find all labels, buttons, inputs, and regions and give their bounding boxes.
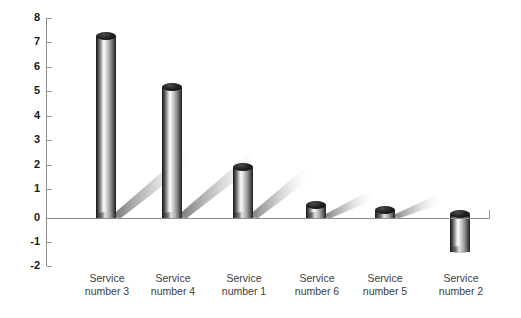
y-tick-label-6: 6 <box>22 60 40 72</box>
y-tick-mark <box>47 42 52 43</box>
y-tick-label-2: 2 <box>22 158 40 170</box>
bar-foot <box>450 246 470 253</box>
bar-service-number-6 <box>306 205 326 218</box>
x-category-label-0: Service number 3 <box>72 272 142 298</box>
bar-service-number-1 <box>233 167 253 218</box>
bar-chart: 8 7 6 5 4 3 2 1 0 -1 -2 <box>0 0 521 318</box>
x-category-label-4: Service number 5 <box>350 272 420 298</box>
bar-shadow <box>247 170 312 218</box>
bar-body <box>162 87 182 218</box>
zero-baseline-endcap <box>489 210 490 219</box>
bar-service-number-3 <box>96 36 116 218</box>
bar-cap <box>233 163 253 171</box>
y-tick-label-neg1: -1 <box>16 235 40 247</box>
y-tick-mark <box>47 242 52 243</box>
y-axis-line <box>46 18 47 266</box>
bar-shadow <box>110 152 196 218</box>
y-tick-label-4: 4 <box>22 109 40 121</box>
x-category-label-5: Service number 2 <box>426 272 496 298</box>
bar-body <box>96 36 116 218</box>
y-tick-mark <box>47 165 52 166</box>
y-tick-label-3: 3 <box>22 133 40 145</box>
bar-shadow-layer <box>0 0 521 318</box>
y-tick-mark <box>47 18 52 19</box>
y-tick-label-7: 7 <box>22 35 40 47</box>
y-tick-mark <box>47 67 52 68</box>
y-tick-label-1: 1 <box>22 182 40 194</box>
y-tick-mark <box>47 189 52 190</box>
y-tick-label-neg2: -2 <box>16 259 40 271</box>
y-tick-label-5: 5 <box>22 84 40 96</box>
y-tick-label-8: 8 <box>22 11 40 23</box>
y-tick-mark <box>47 140 52 141</box>
bar-service-number-4 <box>162 87 182 218</box>
y-tick-mark <box>47 266 52 267</box>
bar-cap <box>96 32 116 40</box>
bar-service-number-5 <box>375 210 395 218</box>
bar-shadow <box>389 196 443 218</box>
bar-cap <box>162 83 182 91</box>
plot-area: 8 7 6 5 4 3 2 1 0 -1 -2 <box>0 0 521 318</box>
x-category-label-1: Service number 4 <box>138 272 208 298</box>
y-tick-mark <box>47 91 52 92</box>
bar-cap <box>450 210 470 218</box>
y-tick-label-0: 0 <box>22 211 40 223</box>
zero-baseline <box>46 218 490 219</box>
bar-shadow <box>320 192 376 218</box>
x-category-label-3: Service number 6 <box>282 272 352 298</box>
x-category-label-2: Service number 1 <box>209 272 279 298</box>
bar-cap <box>375 206 395 214</box>
bar-cap <box>306 201 326 209</box>
y-tick-mark <box>47 116 52 117</box>
bar-body <box>233 167 253 218</box>
bar-service-number-2 <box>450 214 470 252</box>
